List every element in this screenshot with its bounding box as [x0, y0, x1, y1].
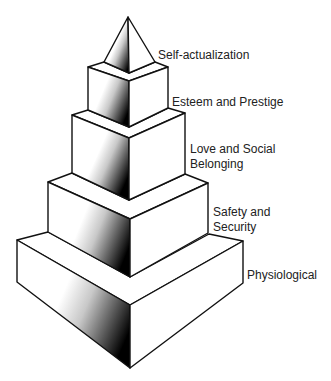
label-esteem-text: Esteem and Prestige — [172, 95, 283, 109]
label-safety: Safety and Security — [213, 205, 270, 235]
label-esteem: Esteem and Prestige — [172, 95, 283, 110]
label-self-actualization-text: Self-actualization — [158, 48, 249, 62]
label-self-actualization: Self-actualization — [158, 48, 249, 63]
label-safety-line2: Security — [213, 220, 270, 235]
label-physiological-text: Physiological — [247, 268, 317, 282]
label-physiological: Physiological — [247, 268, 317, 283]
label-love: Love and Social Belonging — [190, 142, 275, 172]
label-safety-line1: Safety and — [213, 205, 270, 220]
label-love-line1: Love and Social — [190, 142, 275, 157]
tier-self-actualization — [104, 17, 155, 73]
label-love-line2: Belonging — [190, 157, 275, 172]
